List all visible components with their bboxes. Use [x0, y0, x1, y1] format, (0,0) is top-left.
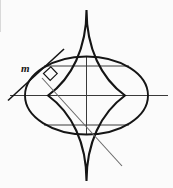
geometry-figure: m [0, 0, 173, 188]
tangent-label-m: m [21, 63, 29, 74]
figure-canvas [0, 0, 173, 188]
